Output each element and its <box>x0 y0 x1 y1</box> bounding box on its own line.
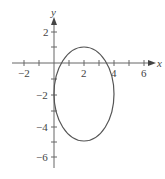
y-axis-label: y <box>50 6 56 18</box>
x-tick-label: 6 <box>141 67 147 79</box>
x-axis-arrow-icon <box>148 60 156 66</box>
x-tick-label: −2 <box>18 67 30 79</box>
y-tick-label: −6 <box>36 151 48 163</box>
y-tick-label: −2 <box>36 89 48 101</box>
x-tick-label: 2 <box>81 67 87 79</box>
y-tick-label: 2 <box>43 26 49 38</box>
y-axis-arrow-icon <box>51 17 57 25</box>
chart: x y −2 2 4 6 2 −2 −4 −6 <box>0 0 165 179</box>
x-axis-label: x <box>156 57 162 69</box>
y-tick-label: −4 <box>36 121 48 133</box>
